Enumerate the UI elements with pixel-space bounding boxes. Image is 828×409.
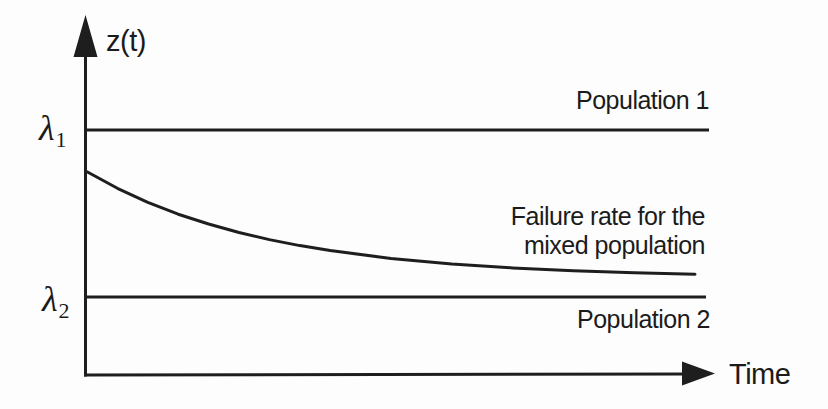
lambda1-symbol: λ: [39, 108, 55, 148]
mixed-population-annotation: Failure rate for the mixed population: [511, 202, 705, 260]
y-axis-arrowhead-icon: [74, 15, 98, 57]
y-axis-label: z(t): [106, 25, 146, 58]
x-axis-line: [84, 374, 692, 375]
lambda2-tick-label: λ2: [42, 281, 70, 317]
failure-rate-figure: z(t) Time λ1 λ2 Population 1 Population …: [0, 0, 828, 409]
mixed-population-annotation-line1: Failure rate for the: [511, 202, 705, 231]
lambda2-symbol: λ: [42, 279, 58, 319]
lambda1-subscript: 1: [56, 127, 67, 152]
lambda2-subscript: 2: [59, 298, 70, 323]
population1-label: Population 1: [576, 86, 709, 115]
mixed-population-annotation-line2: mixed population: [511, 231, 705, 260]
x-axis-arrowhead-icon: [682, 362, 715, 386]
x-axis-label: Time: [729, 358, 790, 391]
lambda1-tick-label: λ1: [39, 110, 67, 146]
population2-label: Population 2: [577, 305, 710, 334]
